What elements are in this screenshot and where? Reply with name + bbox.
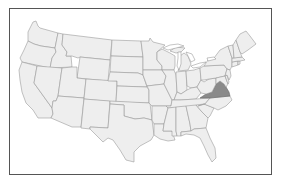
state-wyoming[interactable] [77, 57, 110, 81]
state-florida[interactable] [181, 128, 216, 162]
state-iowa[interactable] [143, 70, 166, 86]
us-map [0, 0, 286, 185]
state-north-dakota[interactable] [111, 40, 143, 57]
state-arizona[interactable] [51, 96, 84, 127]
state-rhode-island[interactable] [238, 61, 240, 65]
state-indiana[interactable] [176, 71, 187, 94]
state-new-mexico[interactable] [81, 99, 110, 129]
state-colorado[interactable] [84, 79, 117, 102]
state-kansas[interactable] [116, 86, 149, 103]
state-montana[interactable] [62, 34, 112, 60]
